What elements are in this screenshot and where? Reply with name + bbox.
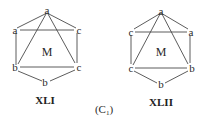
vertex-lower-right: b bbox=[189, 62, 195, 74]
vertex-upper-left: c bbox=[129, 26, 134, 38]
vertex-upper-right: c bbox=[77, 24, 82, 36]
structure-title: XLII bbox=[149, 96, 173, 108]
diagram-canvas: a a c b c b M XLI a c a c b b M XLII bbox=[0, 0, 205, 129]
caption-open: (C bbox=[95, 103, 106, 116]
vertex-bottom: b bbox=[42, 76, 48, 88]
vertex-upper-right: a bbox=[189, 26, 194, 38]
vertex-bottom: b bbox=[158, 78, 164, 90]
vertex-upper-left: a bbox=[13, 24, 18, 36]
metal-center: M bbox=[42, 45, 53, 59]
octahedron-xli: a a c b c b M XLI bbox=[12, 4, 81, 106]
vertex-top: a bbox=[159, 5, 164, 17]
caption-close: ) bbox=[109, 103, 113, 116]
structure-title: XLI bbox=[35, 94, 55, 106]
metal-center: M bbox=[156, 45, 167, 59]
vertex-lower-right: c bbox=[77, 61, 82, 73]
vertex-lower-left: c bbox=[129, 62, 134, 74]
vertex-top: a bbox=[45, 4, 50, 16]
octahedron-xlii: a c a c b b M XLII bbox=[129, 5, 196, 108]
figure-caption: (C1) bbox=[95, 103, 114, 117]
vertex-lower-left: b bbox=[12, 61, 18, 73]
